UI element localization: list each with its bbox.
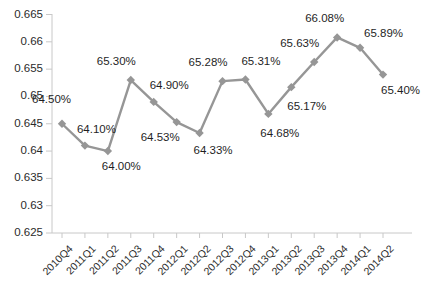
data-point-label: 65.28% — [189, 57, 228, 69]
y-axis-tick-label: 0.655 — [0, 63, 43, 75]
data-point-label: 66.08% — [305, 13, 344, 25]
data-point-markers — [58, 33, 387, 155]
x-axis-ticks — [62, 233, 383, 238]
data-point-label: 65.63% — [280, 38, 319, 50]
y-axis-ticks — [46, 15, 52, 234]
y-axis-tick-label: 0.665 — [0, 9, 43, 21]
y-axis-tick-label: 0.64 — [0, 145, 43, 157]
data-point-label: 64.00% — [102, 161, 141, 173]
data-point-label: 64.68% — [260, 128, 299, 140]
data-point-label: 65.30% — [97, 56, 136, 68]
line-chart: 0.6650.660.6550.650.6450.640.6350.630.62… — [0, 0, 437, 295]
data-point-label: 65.31% — [241, 56, 280, 68]
data-point-label: 65.17% — [287, 101, 326, 113]
data-point-label: 64.33% — [194, 145, 233, 157]
data-point-label: 64.90% — [150, 80, 189, 92]
data-point-marker — [195, 129, 203, 137]
y-axis-tick-label: 0.635 — [0, 172, 43, 184]
data-point-marker — [104, 147, 112, 155]
y-axis-tick-label: 0.66 — [0, 36, 43, 48]
data-point-marker — [218, 77, 226, 85]
data-point-label: 64.10% — [77, 124, 116, 136]
data-point-label: 65.89% — [364, 28, 403, 40]
y-axis-tick-label: 0.645 — [0, 118, 43, 130]
data-point-label: 65.40% — [381, 85, 420, 97]
data-point-label: 64.53% — [141, 132, 180, 144]
y-axis-tick-label: 0.63 — [0, 200, 43, 212]
y-axis-tick-label: 0.625 — [0, 227, 43, 239]
data-point-label: 64.50% — [32, 94, 71, 106]
